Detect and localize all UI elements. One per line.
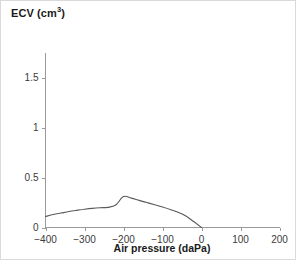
y-axis-ticks <box>42 79 46 229</box>
x-tick-label: −300 <box>73 234 96 245</box>
ecv-curve <box>46 196 202 227</box>
y-axis-tick-labels: 00.511.5 <box>25 72 39 233</box>
y-tick-label: 1 <box>33 122 39 133</box>
x-axis-ticks <box>47 228 281 232</box>
x-axis-title: Air pressure (daPa) <box>114 242 211 254</box>
x-tick-label: 200 <box>271 234 288 245</box>
y-tick-label: 1.5 <box>25 72 39 83</box>
chart-figure: ECV (cm3) 00.511.5 −400−300−200−10001002… <box>0 0 296 260</box>
x-tick-label: −400 <box>34 234 57 245</box>
y-tick-label: 0 <box>33 222 39 233</box>
y-axis: 00.511.5 <box>25 53 46 233</box>
y-tick-label: 0.5 <box>25 172 39 183</box>
x-tick-label: 100 <box>232 234 249 245</box>
ecv-line-chart: 00.511.5 −400−300−200−1000100200 Air pre… <box>1 1 296 260</box>
